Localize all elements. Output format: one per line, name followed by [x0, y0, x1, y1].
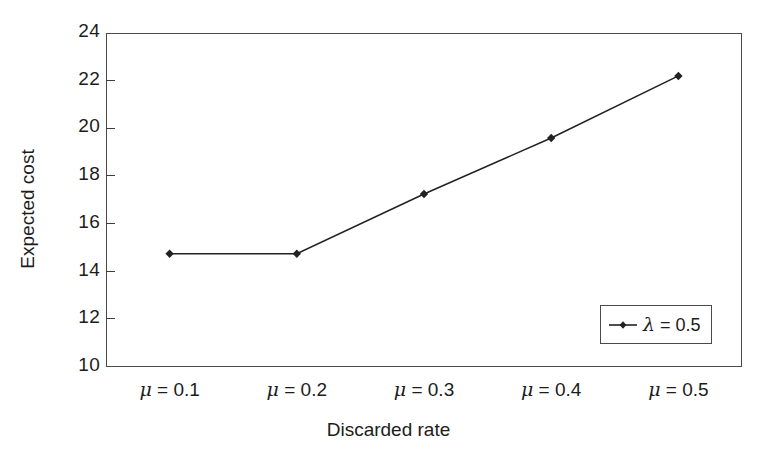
y-axis-tick: [106, 223, 115, 224]
x-axis-tick-label: μ = 0.4: [486, 378, 616, 401]
y-axis-tick-label: 24: [54, 20, 100, 42]
y-axis-tick-label: 18: [54, 163, 100, 185]
greek-symbol-mu: μ: [267, 378, 279, 400]
greek-symbol-lambda: λ: [643, 313, 655, 335]
x-axis-title: Discarded rate: [0, 419, 777, 441]
y-axis-tick: [106, 175, 115, 176]
greek-symbol-mu: μ: [139, 378, 151, 400]
greek-symbol-mu: μ: [394, 378, 406, 400]
y-axis-tick-labels: 1012141618202224: [44, 0, 100, 457]
y-axis-tick-label: 20: [54, 115, 100, 137]
y-axis-tick: [106, 80, 115, 81]
y-axis-tick: [106, 128, 115, 129]
y-axis-tick: [106, 318, 115, 319]
y-axis-tick: [106, 271, 115, 272]
y-axis-title: Expected cost: [17, 119, 39, 299]
greek-symbol-mu: μ: [648, 378, 660, 400]
y-axis-tick-label: 10: [54, 354, 100, 376]
chart-figure: 1012141618202224 Expected cost μ = 0.1μ …: [0, 0, 777, 457]
x-axis-tick-label: μ = 0.2: [232, 378, 362, 401]
x-axis-tick-labels: μ = 0.1μ = 0.2μ = 0.3μ = 0.4μ = 0.5: [106, 378, 742, 406]
greek-symbol-mu: μ: [521, 378, 533, 400]
y-axis-tick-label: 14: [54, 259, 100, 281]
x-axis-tick-label: μ = 0.1: [105, 378, 235, 401]
legend-entry-label: λ = 0.5: [643, 313, 701, 336]
legend-line-marker-icon: [608, 319, 638, 331]
x-axis-tick-label: μ = 0.3: [359, 378, 489, 401]
y-axis-tick-label: 22: [54, 68, 100, 90]
y-axis-tick-label: 12: [54, 306, 100, 328]
legend-box: λ = 0.5: [600, 305, 712, 344]
x-axis-tick-label: μ = 0.5: [613, 378, 743, 401]
y-axis-tick-label: 16: [54, 211, 100, 233]
